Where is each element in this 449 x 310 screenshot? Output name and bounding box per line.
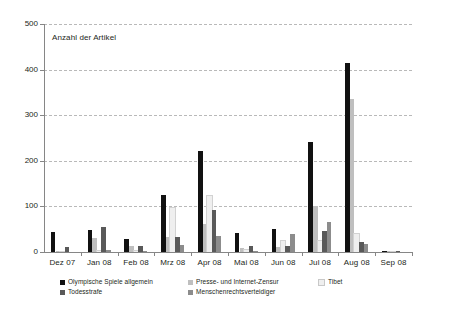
- legend-entry[interactable]: Tibet: [318, 278, 342, 286]
- y-axis-label: 200: [0, 157, 38, 165]
- x-axis-label: Aug 08: [338, 258, 375, 267]
- y-axis-label: 400: [0, 66, 38, 74]
- y-axis-label: 100: [0, 202, 38, 210]
- x-axis-label: Dez 07: [44, 258, 81, 267]
- bar-group: [375, 24, 412, 252]
- legend-swatch-icon: [188, 280, 193, 285]
- bar-group: [81, 24, 118, 252]
- legend-entry[interactable]: Todesstrafe: [60, 288, 102, 296]
- x-axis-label: Apr 08: [191, 258, 228, 267]
- legend-entry[interactable]: Menschenrechtsverteidiger: [188, 288, 275, 296]
- legend-swatch-icon: [188, 290, 193, 295]
- x-axis-label: Feb 08: [118, 258, 155, 267]
- bar: [364, 244, 369, 252]
- bar-group: [191, 24, 228, 252]
- x-tick-mark: [412, 252, 413, 256]
- x-tick-mark: [154, 252, 155, 256]
- x-tick-mark: [302, 252, 303, 256]
- legend-label: Todesstrafe: [68, 288, 102, 296]
- x-axis-label: Sep 08: [375, 258, 412, 267]
- y-axis-title: Anzahl der Artikel: [52, 33, 116, 42]
- x-tick-mark: [191, 252, 192, 256]
- legend-swatch-icon: [318, 279, 325, 286]
- legend-row: TodesstrafeMenschenrechtsverteidiger: [60, 288, 400, 298]
- bar-group: [228, 24, 265, 252]
- bar-group: [338, 24, 375, 252]
- x-tick-mark: [81, 252, 82, 256]
- x-axis-label: Mrz 08: [154, 258, 191, 267]
- legend-label: Presse- und Internet-Zensur: [196, 278, 279, 286]
- x-tick-mark: [228, 252, 229, 256]
- bar-group: [118, 24, 155, 252]
- legend-label: Menschenrechtsverteidiger: [196, 288, 275, 296]
- x-tick-mark: [338, 252, 339, 256]
- bar-group: [265, 24, 302, 252]
- legend-label: Olympische Spiele allgemein: [68, 278, 153, 286]
- chart-legend: Olympische Spiele allgemeinPresse- und I…: [60, 278, 400, 298]
- bar: [350, 99, 355, 252]
- bar-chart: 0100200300400500 Anzahl der Artikel Dez …: [0, 0, 449, 310]
- bar-group: [44, 24, 81, 252]
- x-tick-mark: [265, 252, 266, 256]
- bar: [51, 232, 56, 252]
- legend-swatch-icon: [60, 290, 65, 295]
- bar-group: [302, 24, 339, 252]
- x-axis-label: Jan 08: [81, 258, 118, 267]
- legend-swatch-icon: [60, 280, 65, 285]
- y-axis-label: 300: [0, 111, 38, 119]
- y-axis-label: 0: [0, 248, 38, 256]
- y-axis-line: [44, 24, 45, 253]
- plot-area: [44, 24, 412, 252]
- x-tick-mark: [118, 252, 119, 256]
- bar: [327, 222, 332, 252]
- x-axis-label: Jun 08: [265, 258, 302, 267]
- bar: [101, 227, 106, 252]
- bar: [180, 245, 185, 252]
- legend-label: Tibet: [328, 278, 342, 286]
- bar-group: [154, 24, 191, 252]
- legend-row: Olympische Spiele allgemeinPresse- und I…: [60, 278, 400, 288]
- y-axis-label: 500: [0, 20, 38, 28]
- bar: [92, 238, 97, 252]
- bar: [290, 234, 295, 252]
- x-tick-mark: [375, 252, 376, 256]
- legend-entry[interactable]: Presse- und Internet-Zensur: [188, 278, 279, 286]
- x-axis-label: Jul 08: [302, 258, 339, 267]
- legend-entry[interactable]: Olympische Spiele allgemein: [60, 278, 153, 286]
- bar: [216, 236, 221, 252]
- x-axis-label: Mai 08: [228, 258, 265, 267]
